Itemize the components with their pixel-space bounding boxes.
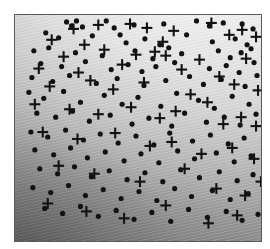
- background-gradient: [15, 15, 261, 241]
- scatter-plot-panel: [14, 14, 262, 242]
- scatter-figure: [0, 0, 270, 249]
